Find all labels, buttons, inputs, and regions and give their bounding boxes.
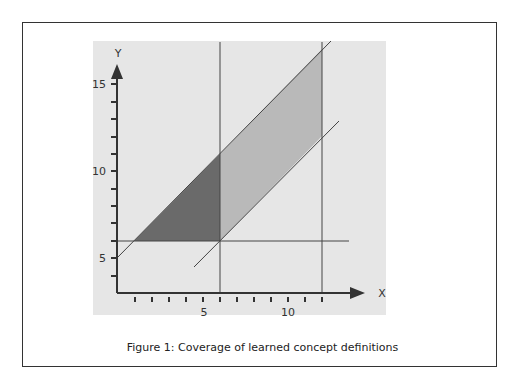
x-tick-label-5: 5	[201, 306, 208, 319]
x-tick-label-10: 10	[281, 306, 295, 319]
y-tick-label-10: 10	[92, 165, 106, 178]
x-axis-label: X	[378, 287, 386, 300]
figure-caption: Figure 1: Coverage of learned concept de…	[0, 341, 525, 354]
chart: 15 10 5 5 10 Y X	[0, 0, 525, 388]
y-tick-label-5: 5	[99, 252, 106, 265]
y-tick-label-15: 15	[92, 78, 106, 91]
y-axis-label: Y	[114, 47, 122, 60]
